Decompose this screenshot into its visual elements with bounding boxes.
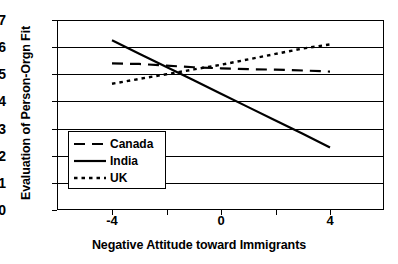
y-axis-title: Evaluation of Person-Orgn Fit [19,13,37,213]
legend-key-dotted-icon [73,173,107,183]
x-axis-title: Negative Attitude toward Immigrants [0,238,398,252]
y-tick-label: 0 [0,203,6,217]
legend-label-canada: Canada [110,138,153,150]
y-tick-label: 4 [0,94,6,108]
y-tick-label: 2 [0,149,6,163]
x-tick-label: -4 [97,214,127,227]
x-tick-mark [167,210,168,215]
series-line-uk [112,44,330,83]
x-tick-label: 4 [315,214,345,227]
y-tick-label: 5 [0,67,6,81]
series-line-canada [112,63,330,71]
y-tick-label: 6 [0,40,6,54]
legend-label-uk: UK [110,172,127,184]
x-tick-label: 0 [206,214,236,227]
line-chart: Evaluation of Person-Orgn Fit 7 6 5 4 3 … [0,0,398,264]
y-tick-label: 7 [0,13,6,27]
y-tick-label: 1 [0,176,6,190]
y-tick-mark [52,210,57,211]
legend-item-uk: UK [73,169,165,186]
y-tick-label: 3 [0,122,6,136]
legend-item-canada: Canada [73,135,165,152]
legend: Canada India UK [68,131,166,189]
legend-label-india: India [110,155,138,167]
x-tick-mark [276,210,277,215]
legend-key-dashed-icon [73,139,107,149]
legend-item-india: India [73,152,165,169]
legend-key-solid-icon [73,156,107,166]
